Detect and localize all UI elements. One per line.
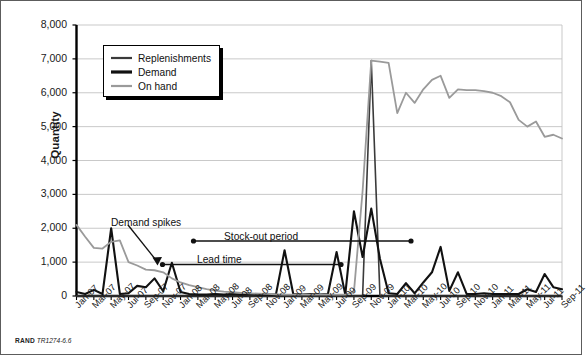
lead-time-end-dot: [338, 262, 343, 267]
legend-item-on-hand[interactable]: On hand: [110, 79, 219, 93]
legend-item-replenishments[interactable]: Replenishments: [110, 51, 219, 65]
annotation-stock-out-period: Stock-out period: [224, 231, 298, 242]
y-tick-label: 2,000: [19, 221, 67, 233]
credit-id: TR1274-6.6: [37, 337, 72, 344]
legend-swatch-icon: [110, 52, 133, 64]
y-tick-label: 1,000: [19, 255, 67, 267]
credit-org: RAND: [15, 337, 35, 344]
y-tick-label: 0: [19, 289, 67, 301]
y-tick-label: 3,000: [19, 187, 67, 199]
legend-swatch-icon: [110, 66, 133, 78]
y-tick-label: 8,000: [19, 18, 67, 30]
demand-spikes-leader: [128, 225, 158, 262]
y-tick-label: 7,000: [19, 52, 67, 64]
stock-out-end-dot: [408, 238, 413, 243]
annotation-lead-time: Lead time: [197, 254, 242, 265]
legend-label: Demand: [138, 66, 177, 79]
y-tick-label: 6,000: [19, 86, 67, 98]
y-tick-label: 5,000: [19, 120, 67, 132]
y-tick-label: 4,000: [19, 154, 67, 166]
legend-swatch-icon: [110, 80, 133, 92]
annotation-demand-spikes: Demand spikes: [111, 217, 181, 228]
legend-label: On hand: [138, 80, 177, 93]
chart-legend: ReplenishmentsDemandOn hand: [103, 45, 220, 97]
legend-label: Replenishments: [138, 52, 211, 65]
source-credit: RAND TR1274-6.6: [15, 337, 72, 344]
legend-item-demand[interactable]: Demand: [110, 65, 219, 79]
